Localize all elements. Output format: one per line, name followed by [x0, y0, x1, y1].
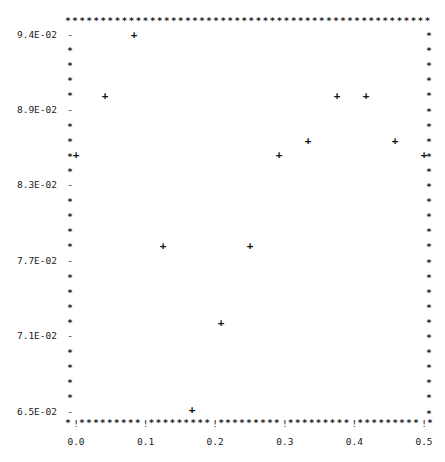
border-star: *	[426, 333, 431, 343]
border-star: *	[263, 16, 268, 26]
border-star: *	[426, 76, 431, 86]
border-star: *	[93, 418, 98, 428]
border-star: *	[426, 137, 431, 147]
border-star: *	[67, 122, 72, 132]
border-star: *	[114, 418, 119, 428]
border-star: *	[67, 288, 72, 298]
border-star: *	[426, 46, 431, 56]
border-star: *	[170, 418, 175, 428]
border-star: *	[312, 16, 317, 26]
border-star: *	[164, 16, 169, 26]
border-star: *	[426, 378, 431, 388]
border-star: *	[67, 197, 72, 207]
border-star: *	[406, 418, 411, 428]
border-star: *	[330, 418, 335, 428]
border-star: *	[115, 16, 120, 26]
border-star: *	[426, 303, 431, 313]
border-star: *	[316, 418, 321, 428]
line-printer-scatter-plot: ****************************************…	[0, 0, 445, 462]
border-star: *	[67, 303, 72, 313]
border-star: *	[79, 16, 84, 26]
border-star: *	[213, 16, 218, 26]
border-star: *	[232, 418, 237, 428]
border-star: *	[108, 16, 113, 26]
border-star: *	[253, 418, 258, 428]
border-star: *	[392, 418, 397, 428]
y-axis-ticks: -9.4E-02-8.9E-02-8.3E-02-7.7E-02-7.1E-02…	[17, 29, 73, 417]
border-star: *	[426, 122, 431, 132]
y-tick-mark: -	[67, 330, 73, 341]
y-tick-label: 6.5E-02	[17, 406, 57, 417]
border-star: *	[397, 16, 402, 26]
y-tick-mark: -	[67, 406, 73, 417]
x-tick-label: 0.4	[346, 436, 363, 447]
border-star: *	[149, 418, 154, 428]
border-star: *	[199, 16, 204, 26]
border-star: *	[204, 418, 209, 428]
border-star: *	[143, 16, 148, 26]
border-star: *	[344, 418, 349, 428]
border-star: *	[67, 137, 72, 147]
border-star: *	[79, 418, 84, 428]
border-star: *	[426, 242, 431, 252]
data-point-plus-marker: +	[276, 148, 283, 161]
border-star: *	[67, 61, 72, 71]
data-point-plus-marker: +	[247, 239, 254, 252]
y-tick-mark: -	[67, 104, 73, 115]
border-star: *	[206, 16, 211, 26]
border-star: *	[150, 16, 155, 26]
border-star: *	[135, 418, 140, 428]
x-tick-mark: !	[212, 418, 218, 429]
border-star: *	[67, 348, 72, 358]
border-star: *	[177, 418, 182, 428]
border-star: *	[378, 418, 383, 428]
border-star: *	[93, 16, 98, 26]
border-star: *	[390, 16, 395, 26]
x-tick-mark: !	[282, 418, 288, 429]
border-star: *	[426, 258, 431, 268]
border-star: *	[426, 288, 431, 298]
border-star: *	[65, 16, 70, 26]
border-star: *	[426, 167, 431, 177]
border-star: *	[239, 418, 244, 428]
border-star: *	[184, 418, 189, 428]
border-star: *	[67, 76, 72, 86]
border-star: *	[347, 16, 352, 26]
y-tick-label: 8.9E-02	[17, 104, 57, 115]
border-star: *	[185, 16, 190, 26]
border-star: *	[361, 16, 366, 26]
y-tick-label: 9.4E-02	[17, 29, 57, 40]
x-tick-label: 0.3	[276, 436, 293, 447]
border-star: *	[372, 418, 377, 428]
y-tick-mark: -	[67, 255, 73, 266]
border-star: *	[260, 418, 265, 428]
border-star: *	[340, 16, 345, 26]
border-star: *	[425, 16, 430, 26]
border-star: *	[426, 197, 431, 207]
y-tick-label: 7.7E-02	[17, 255, 57, 266]
border-star: *	[426, 273, 431, 283]
x-tick-label: 0.5	[415, 436, 432, 447]
border-star: *	[305, 16, 310, 26]
border-star: *	[426, 61, 431, 71]
border-star: *	[234, 16, 239, 26]
border-star: *	[86, 418, 91, 428]
border-star: *	[171, 16, 176, 26]
border-star: *	[256, 16, 261, 26]
border-star: *	[413, 418, 418, 428]
border-star: *	[67, 167, 72, 177]
border-star: *	[426, 409, 431, 419]
border-star: *	[192, 16, 197, 26]
border-star: *	[86, 16, 91, 26]
border-star: *	[427, 418, 432, 428]
border-star: *	[157, 16, 162, 26]
border-star: *	[72, 16, 77, 26]
data-point-plus-marker: +	[160, 239, 167, 252]
border-star: *	[242, 16, 247, 26]
data-point-plus-marker: +	[305, 134, 312, 147]
data-point-plus-marker: +	[363, 89, 370, 102]
border-star: *	[404, 16, 409, 26]
border-star: *	[101, 16, 106, 26]
border-star: *	[67, 363, 72, 373]
border-star: *	[277, 16, 282, 26]
